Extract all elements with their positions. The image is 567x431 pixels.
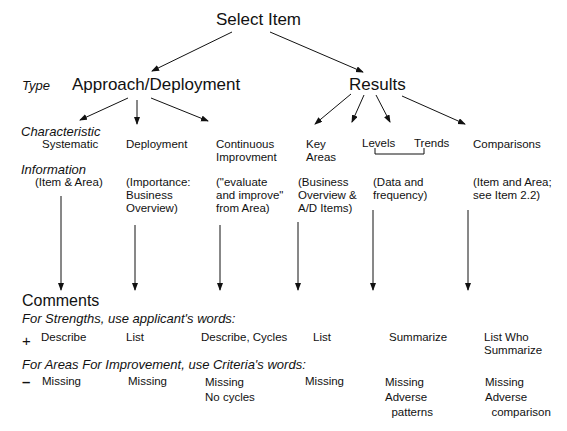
deployment-info: (Importance: Business Overview) <box>126 176 191 216</box>
continuous-improvement-strength: Describe, Cycles <box>201 331 287 344</box>
levels-trends-afi: Missing Adverse patterns <box>385 375 433 420</box>
arrow-to-key-areas <box>315 94 351 124</box>
deployment-afi: Missing <box>128 375 167 388</box>
comments-heading: Comments <box>22 292 99 310</box>
approach-deployment-node: Approach/Deployment <box>72 75 240 95</box>
deployment-strength: List <box>126 331 144 344</box>
continuous-improvement-node: Continuous Improvment <box>216 138 277 164</box>
arrow-to-systematic <box>80 98 128 120</box>
minus-icon: – <box>22 373 30 390</box>
key-areas-node: Key Areas <box>306 138 336 164</box>
systematic-info: (Item & Area) <box>35 176 103 189</box>
results-node: Results <box>349 75 406 95</box>
arrow-to-trends <box>376 95 390 122</box>
systematic-strength: Describe <box>41 331 86 344</box>
levels-trends-info: (Data and frequency) <box>373 176 427 202</box>
comparisons-afi: Missing Adverse comparison <box>485 375 551 420</box>
continuous-improvement-afi: Missing No cycles <box>205 375 255 405</box>
comparisons-info: (Item and Area; see Item 2.2) <box>473 176 552 202</box>
plus-icon: + <box>22 332 31 349</box>
comparisons-node: Comparisons <box>473 138 541 151</box>
systematic-afi: Missing <box>42 375 81 388</box>
continuous-improvement-info: ("evaluate and improve" from Area) <box>216 176 283 216</box>
key-areas-info: (Business Overview & A/D Items) <box>298 176 357 216</box>
trends-node: Trends <box>414 137 449 150</box>
levels-node: Levels <box>362 137 395 150</box>
arrow-to-approach <box>152 32 232 71</box>
arrow-to-levels <box>352 95 364 122</box>
arrow-to-results <box>270 32 363 72</box>
evaluation-flow-diagram: Select Item Type Approach/Deployment Res… <box>0 0 567 431</box>
type-label: Type <box>22 79 50 94</box>
key-areas-afi: Missing <box>305 375 344 388</box>
deployment-node: Deployment <box>126 138 187 151</box>
arrow-to-continuous-improvement <box>151 98 208 121</box>
strengths-instruction: For Strengths, use applicant's words: <box>22 312 235 327</box>
levels-trends-strength: Summarize <box>389 331 447 344</box>
arrow-to-comparisons <box>402 96 465 124</box>
comparisons-strength: List Who Summarize <box>484 331 542 357</box>
select-item-title: Select Item <box>216 10 301 30</box>
key-areas-strength: List <box>313 331 331 344</box>
systematic-node: Systematic <box>42 138 98 151</box>
afi-instruction: For Areas For Improvement, use Criteria'… <box>22 358 306 373</box>
